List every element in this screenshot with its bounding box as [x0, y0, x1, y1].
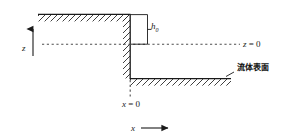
- upper-wall: [38, 14, 131, 21]
- fluid-surface-leader: [226, 72, 234, 77]
- x-axis-label: x: [131, 124, 135, 133]
- x-zero-equals: = 0: [126, 99, 140, 109]
- step-height-subscript: 0: [156, 27, 159, 33]
- lower-wall: [130, 79, 231, 86]
- vertical-wall-hatching: [123, 14, 130, 78]
- step-height-bracket: [131, 15, 152, 45]
- x-zero-label: x = 0: [122, 100, 140, 109]
- vertical-step-wall: [123, 14, 130, 79]
- fluid-surface-step-diagram: z x h0 z = 0 x = 0 流体表面: [0, 0, 287, 140]
- z-axis-label: z: [22, 44, 26, 53]
- z-zero-label: z = 0: [243, 40, 261, 49]
- fluid-surface-label: 流体表面: [237, 64, 269, 72]
- z-zero-equals: = 0: [247, 39, 261, 49]
- upper-wall-hatching: [38, 14, 130, 21]
- lower-wall-hatching: [130, 79, 231, 86]
- step-height-label: h0: [151, 22, 159, 33]
